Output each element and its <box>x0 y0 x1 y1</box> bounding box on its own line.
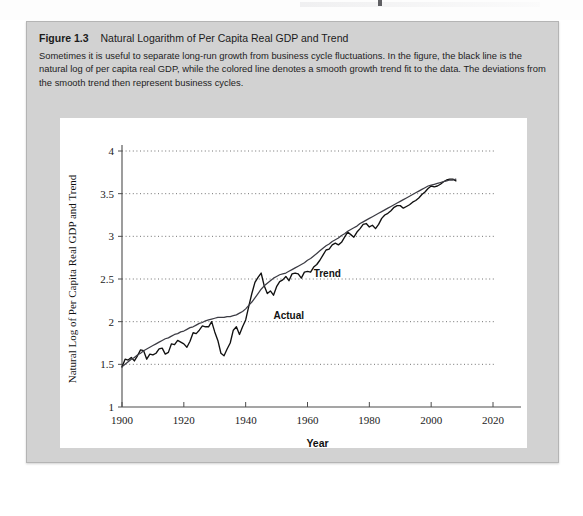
y-tick-label: 2 <box>109 316 115 328</box>
tick-labels-group: 11.522.533.54190019201940196019802000202… <box>100 145 504 426</box>
y-tick-label: 4 <box>109 145 115 157</box>
figure-panel: Figure 1.3 Natural Logarithm of Per Capi… <box>26 21 559 463</box>
x-tick-label: 1960 <box>297 414 320 426</box>
x-axis-title: Year <box>306 437 328 448</box>
chart-plot-card: 11.522.533.54190019201940196019802000202… <box>60 118 527 448</box>
series-group <box>122 179 456 367</box>
scan-top-margin <box>0 0 583 20</box>
figure-heading: Figure 1.3 Natural Logarithm of Per Capi… <box>39 32 546 45</box>
x-tick-label: 1980 <box>358 414 381 426</box>
gdp-trend-line-chart: 11.522.533.54190019201940196019802000202… <box>60 118 527 448</box>
y-tick-label: 1.5 <box>100 358 114 370</box>
x-tick-label: 1940 <box>235 414 258 426</box>
annotations-group: ActualTrend <box>273 268 340 321</box>
figure-caption: Sometimes it is useful to separate long-… <box>39 49 546 89</box>
x-tick-label: 1920 <box>173 414 196 426</box>
scan-smudge <box>300 2 540 7</box>
y-tick-label: 3.5 <box>100 188 114 200</box>
x-tick-label: 2020 <box>482 414 505 426</box>
y-tick-label: 2.5 <box>100 273 114 285</box>
series-annotation-trend: Trend <box>314 268 341 279</box>
series-line-actual <box>122 179 456 367</box>
figure-number: Figure 1.3 <box>39 32 89 44</box>
y-axis-title: Natural Log of Per Capita Real GDP and T… <box>66 174 78 383</box>
y-tick-label: 3 <box>109 230 115 242</box>
y-tick-label: 1 <box>109 401 115 413</box>
figure-title: Natural Logarithm of Per Capita Real GDP… <box>100 32 348 44</box>
x-tick-label: 1900 <box>111 414 134 426</box>
x-tick-label: 2000 <box>420 414 443 426</box>
series-annotation-actual: Actual <box>273 310 304 321</box>
scan-artifact-mark <box>378 0 382 6</box>
